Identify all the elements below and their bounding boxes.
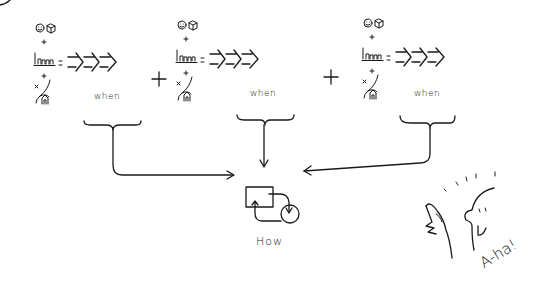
corner-stroke [0, 0, 10, 5]
when-label-1: when [94, 91, 120, 101]
plus-joiner-1 [152, 72, 166, 86]
how-label: How [256, 235, 283, 248]
brace-1 [84, 121, 141, 130]
thinking-person-icon [426, 172, 495, 258]
formula-2 [176, 21, 258, 101]
when-label-3: when [414, 88, 440, 98]
brace-3 [400, 116, 455, 128]
connector-arrow-3 [304, 128, 430, 171]
connector-arrow-1 [113, 130, 233, 175]
brace-2 [237, 115, 294, 125]
plus-joiner-2 [324, 70, 338, 84]
process-cycle-icon [246, 187, 299, 223]
formula-3 [362, 19, 444, 99]
when-label-2: when [250, 88, 276, 98]
